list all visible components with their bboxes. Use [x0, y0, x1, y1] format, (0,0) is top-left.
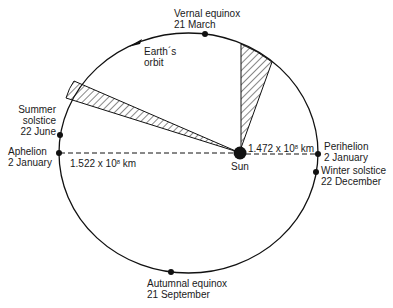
sector-near-aphelion [66, 81, 238, 152]
perihelion-dot [315, 151, 321, 157]
autumnal-equinox-label: Autumnal equinox 21 September [147, 278, 227, 300]
orbit-direction-arrow-icon [128, 39, 142, 47]
sector-near-perihelion [241, 44, 272, 148]
perihelion-distance-label: 1.472 x 108 km [248, 143, 314, 154]
perihelion-label: Perihelion 2 January [324, 141, 368, 163]
winter-solstice-dot [313, 169, 319, 175]
winter-solstice-label: Winter solstice 22 December [321, 165, 386, 187]
autumnal-equinox-dot [168, 269, 174, 275]
aphelion-distance-label: 1.522 x 108 km [70, 158, 136, 169]
sun-icon [234, 147, 247, 160]
aphelion-label: Aphelion 2 January [8, 146, 52, 168]
earth-orbit-label: Earth´s orbit [144, 46, 176, 68]
summer-solstice-label: Summer solstice 22 June [14, 104, 56, 137]
summer-solstice-dot [57, 132, 63, 138]
sun-label: Sun [231, 161, 249, 172]
aphelion-dot [56, 150, 62, 156]
vernal-equinox-label: Vernal equinox 21 March [174, 8, 240, 30]
vernal-equinox-dot [202, 31, 208, 37]
